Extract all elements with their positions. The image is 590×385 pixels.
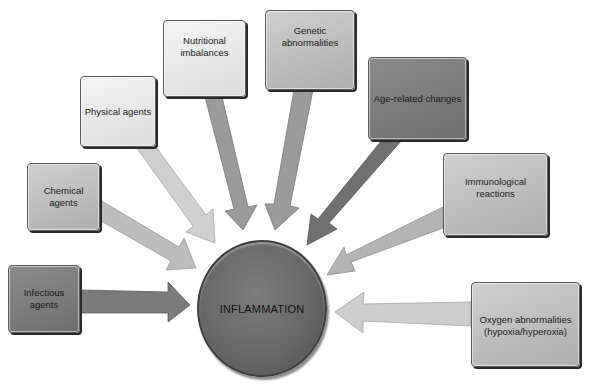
- cause-label: Genetic abnormalities: [277, 25, 343, 49]
- arrow-genetic: [265, 90, 313, 230]
- cause-box-immunological: Immunological reactions: [443, 153, 548, 236]
- arrow-oxygen: [335, 292, 471, 333]
- cause-label: Chemical agents: [31, 185, 96, 209]
- cause-box-chemical: Chemical agents: [27, 163, 100, 231]
- center-label: INFLAMMATION: [220, 303, 305, 315]
- cause-box-age: Age-related changes: [368, 57, 467, 140]
- cause-label: Nutritional imbalances: [175, 35, 235, 59]
- arrow-immunological: [327, 207, 443, 275]
- cause-label: Oxygen abnormalities (hypoxia/hyperoxia): [478, 314, 574, 338]
- cause-label: Physical agents: [85, 106, 152, 118]
- cause-box-infectious: Infectious agents: [8, 265, 80, 333]
- arrow-infectious: [80, 282, 190, 322]
- cause-box-nutritional: Nutritional imbalances: [163, 20, 246, 97]
- cause-box-physical: Physical agents: [80, 76, 156, 147]
- arrow-age: [307, 140, 402, 245]
- cause-label: Immunological reactions: [463, 176, 529, 200]
- arrow-chemical: [96, 200, 196, 270]
- cause-label: Age-related changes: [374, 93, 462, 105]
- cause-box-genetic: Genetic abnormalities: [265, 10, 355, 90]
- cause-label: Infectious agents: [12, 287, 76, 311]
- cause-box-oxygen: Oxygen abnormalities (hypoxia/hyperoxia): [471, 282, 580, 367]
- inflammation-center-node: INFLAMMATION: [197, 240, 327, 377]
